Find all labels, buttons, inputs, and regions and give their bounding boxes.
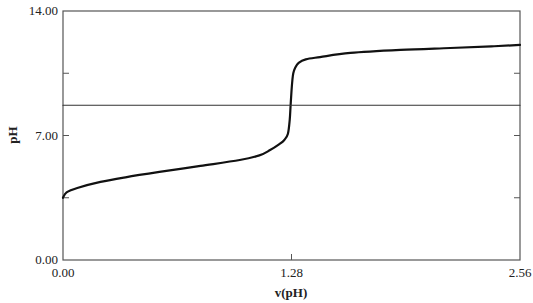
x-tick-label: 0.00 (52, 265, 75, 280)
x-axis-ticks: 0.001.282.56 (52, 254, 532, 280)
y-tick-label: 7.00 (35, 128, 58, 143)
y-axis-ticks: 0.007.0014.00 (29, 3, 520, 267)
x-axis-label: v(pH) (275, 285, 308, 300)
y-axis-label: pH (5, 126, 20, 143)
x-tick-label: 2.56 (509, 265, 532, 280)
titration-curve (63, 45, 520, 198)
titration-chart: 0.007.0014.00 0.001.282.56 v(pH) pH (0, 0, 533, 303)
y-tick-label: 14.00 (29, 3, 58, 18)
x-tick-label: 1.28 (280, 265, 303, 280)
series-layer (63, 45, 520, 198)
